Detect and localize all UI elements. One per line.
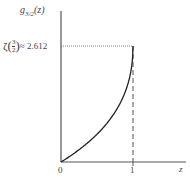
x-tick-label-1: 1 (130, 165, 135, 175)
x-axis-label: z (179, 164, 183, 174)
g32-curve (61, 46, 133, 162)
y-axis-label: g3/2(z) (20, 4, 45, 18)
zeta-value: ≈ 2.612 (20, 41, 47, 51)
y-axis-label-sub: 3/2 (25, 10, 34, 18)
y-axis-label-arg: (z) (34, 4, 45, 15)
chart-canvas (0, 0, 190, 181)
x-tick-label-0: 0 (58, 165, 63, 175)
zeta-annotation: ζ ( 3 2 ) ≈ 2.612 (3, 38, 47, 54)
